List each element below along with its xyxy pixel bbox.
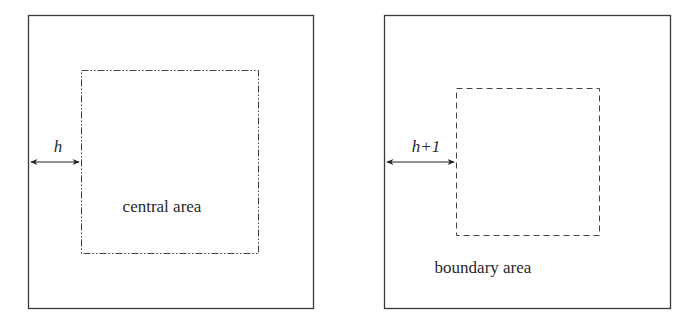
h-plus-1-label: h+1 bbox=[412, 137, 440, 156]
central-area-label: central area bbox=[123, 197, 202, 216]
h-plus-1-text: h+1 bbox=[412, 137, 440, 156]
central-area-boundary bbox=[82, 71, 259, 254]
left-panel: h central area bbox=[29, 16, 314, 309]
h-label: h bbox=[54, 137, 63, 156]
boundary-area-label: boundary area bbox=[435, 258, 532, 277]
boundary-area-inner-boundary bbox=[457, 89, 600, 236]
right-panel: h+1 boundary area bbox=[385, 16, 671, 309]
diagram-canvas: h central area h+1 boundary area bbox=[0, 0, 696, 332]
